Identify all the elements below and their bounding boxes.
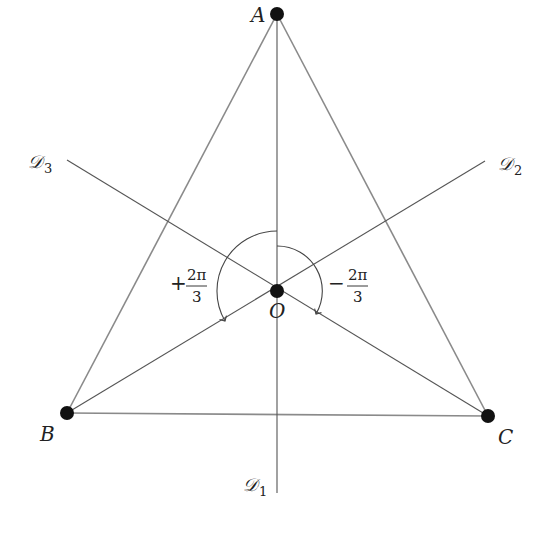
- svg-text:3: 3: [44, 161, 52, 176]
- svg-text:2π: 2π: [348, 266, 368, 284]
- svg-text:−: −: [328, 271, 345, 295]
- axis-d2-label: 𝒟 2: [498, 153, 522, 178]
- svg-text:1: 1: [259, 484, 267, 499]
- svg-text:3: 3: [353, 288, 363, 306]
- vertex-c-label: C: [498, 425, 513, 449]
- edge-ac: [277, 14, 488, 416]
- rotation-label-positive: + 2π 3: [170, 266, 207, 306]
- triangle-diagram: A B C O 𝒟 1 𝒟 2 𝒟 3 + 2π 3 − 2π 3: [0, 0, 545, 535]
- rotation-label-negative: − 2π 3: [328, 266, 368, 306]
- svg-text:+: +: [170, 271, 187, 295]
- vertex-b-label: B: [39, 422, 55, 446]
- axis-d1-label: 𝒟 1: [243, 474, 267, 499]
- vertex-a-dot: [270, 7, 284, 21]
- vertex-c-dot: [481, 409, 495, 423]
- vertex-b-dot: [60, 406, 74, 420]
- svg-text:3: 3: [192, 288, 202, 306]
- rotation-arc-positive: [217, 231, 277, 321]
- edge-ab: [67, 14, 277, 413]
- axis-d3-label: 𝒟 3: [28, 151, 52, 176]
- center-o-label: O: [269, 299, 285, 323]
- svg-text:2: 2: [514, 163, 522, 178]
- svg-text:2π: 2π: [187, 266, 207, 284]
- vertex-a-label: A: [249, 3, 265, 27]
- center-o-dot: [270, 284, 284, 298]
